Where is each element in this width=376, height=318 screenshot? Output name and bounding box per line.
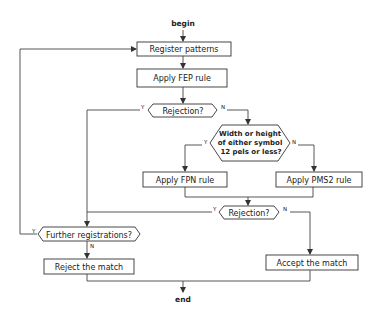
further-yes-loop-path [20, 49, 136, 234]
rejection-2-yes-label: Y [212, 206, 217, 212]
rejection-decision-2: Rejection? [219, 206, 279, 219]
rejection-1-label: Rejection? [162, 107, 203, 116]
size-check-line-1: Width or height [219, 130, 282, 138]
rejection-2-label: Rejection? [228, 209, 269, 218]
size-check-yes-path [185, 145, 202, 171]
rejection-1-no-path [227, 110, 248, 124]
merge-path [185, 187, 313, 197]
size-check-line-2: of either symbol [218, 139, 283, 147]
size-check-line-3: 12 pels or less? [220, 148, 281, 156]
rejection-1-no-label: N [221, 104, 225, 110]
accept-match-label: Accept the match [277, 259, 348, 268]
further-yes-label: Y [31, 228, 36, 234]
apply-fep-label: Apply FEP rule [153, 74, 211, 83]
size-check-yes-label: Y [203, 139, 208, 145]
apply-pms2-box: Apply PMS2 rule [276, 172, 362, 187]
begin-label: begin [171, 19, 195, 28]
further-registrations-decision: Further registrations? [38, 227, 140, 241]
rejection-decision-1: Rejection? [148, 104, 217, 117]
size-check-no-path [298, 145, 314, 171]
apply-fep-box: Apply FEP rule [137, 69, 227, 87]
size-check-no-label: N [292, 139, 296, 145]
apply-fpn-box: Apply FPN rule [143, 172, 227, 187]
flowchart: begin Register patterns Apply FEP rule R… [0, 0, 376, 318]
register-patterns-label: Register patterns [149, 45, 218, 54]
apply-pms2-label: Apply PMS2 rule [286, 176, 351, 185]
end-label: end [175, 295, 191, 304]
rejection-1-yes-path [87, 110, 140, 226]
rejection-2-no-label: N [283, 206, 287, 212]
apply-fpn-label: Apply FPN rule [156, 176, 215, 185]
rejection-1-yes-label: Y [140, 104, 145, 110]
reject-match-box: Reject the match [44, 259, 134, 274]
accept-match-box: Accept the match [266, 255, 358, 270]
register-patterns-box: Register patterns [137, 42, 231, 56]
size-check-decision: Width or height of either symbol 12 pels… [210, 125, 290, 161]
reject-match-label: Reject the match [55, 263, 123, 272]
further-no-label: N [90, 243, 94, 249]
further-registrations-label: Further registrations? [46, 231, 132, 240]
rejection-2-no-path [290, 212, 310, 254]
